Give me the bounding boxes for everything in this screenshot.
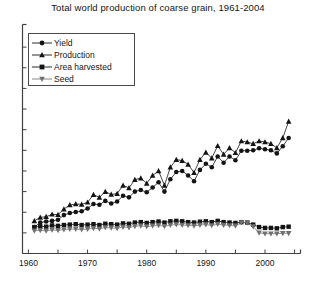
- legend-label-yield: Yield: [54, 37, 73, 49]
- data-point: [162, 189, 167, 194]
- data-point: [114, 226, 120, 231]
- x-axis-tick-label: 1970: [78, 258, 97, 268]
- data-point: [133, 189, 138, 194]
- data-point: [227, 145, 233, 150]
- data-point: [281, 225, 285, 229]
- data-point: [68, 211, 73, 216]
- data-point: [239, 138, 245, 143]
- data-point: [56, 224, 60, 228]
- data-point: [79, 227, 85, 232]
- data-point: [280, 135, 286, 140]
- data-point: [168, 177, 173, 182]
- data-point: [109, 201, 114, 206]
- triangle-up-marker-icon: [32, 49, 52, 61]
- data-point: [144, 224, 150, 229]
- legend-label-area-harvested: Area harvested: [54, 61, 112, 73]
- data-point: [44, 219, 49, 224]
- data-point: [286, 224, 290, 228]
- data-point: [43, 214, 49, 219]
- series-line: [34, 121, 288, 220]
- data-point: [32, 229, 38, 234]
- data-point: [233, 224, 239, 229]
- data-point: [91, 222, 95, 226]
- data-point: [43, 229, 49, 234]
- data-point: [203, 149, 209, 154]
- data-point: [103, 199, 108, 204]
- data-point: [162, 224, 168, 229]
- data-point: [150, 185, 155, 190]
- data-point: [50, 219, 55, 224]
- data-point: [286, 119, 292, 124]
- chart-figure: Total world production of coarse grain, …: [0, 0, 316, 285]
- data-point: [257, 225, 261, 229]
- data-point: [215, 143, 221, 148]
- data-point: [245, 148, 250, 153]
- data-point: [38, 224, 42, 228]
- data-point: [173, 157, 179, 162]
- data-point: [97, 226, 103, 231]
- series-line: [34, 138, 288, 227]
- data-point: [73, 210, 78, 215]
- data-point: [150, 173, 156, 178]
- data-point: [186, 173, 191, 178]
- data-point: [79, 209, 84, 214]
- data-point: [156, 219, 160, 223]
- data-point: [55, 228, 61, 233]
- data-point: [126, 225, 132, 230]
- data-point: [269, 226, 273, 230]
- series-yield: [32, 136, 291, 230]
- data-point: [68, 222, 72, 226]
- data-point: [62, 213, 67, 218]
- data-point: [286, 136, 291, 141]
- data-point: [138, 188, 143, 193]
- circle-marker-icon: [32, 37, 52, 49]
- data-point: [44, 224, 48, 228]
- data-point: [91, 192, 97, 197]
- x-axis-tick-label: 2000: [256, 258, 275, 268]
- data-point: [192, 179, 197, 184]
- data-point: [215, 154, 220, 159]
- data-point: [144, 190, 149, 195]
- data-point: [221, 160, 226, 165]
- data-point: [185, 161, 191, 166]
- data-point: [50, 223, 54, 227]
- data-point: [120, 183, 126, 188]
- x-axis-tick-label: 1980: [137, 258, 156, 268]
- data-point: [127, 195, 132, 200]
- data-point: [263, 147, 268, 152]
- data-point: [239, 148, 244, 153]
- data-point: [269, 148, 274, 153]
- legend-item-area-harvested: Area harvested: [29, 61, 134, 73]
- data-point: [227, 154, 232, 159]
- legend-label-seed: Seed: [54, 73, 74, 85]
- data-point: [115, 199, 120, 204]
- data-point: [275, 226, 279, 230]
- data-point: [85, 206, 90, 211]
- x-axis-tick-label: 1990: [196, 258, 215, 268]
- data-point: [280, 144, 285, 149]
- data-point: [49, 211, 55, 216]
- data-point: [79, 223, 83, 227]
- data-point: [162, 183, 168, 188]
- data-point: [97, 202, 102, 207]
- data-point: [138, 175, 144, 180]
- data-point: [121, 193, 126, 198]
- triangle-down-marker-icon: [32, 73, 52, 85]
- data-point: [275, 151, 280, 156]
- data-point: [209, 223, 215, 228]
- data-point: [156, 168, 162, 173]
- data-point: [209, 165, 214, 170]
- data-point: [251, 148, 256, 153]
- data-point: [180, 169, 185, 174]
- data-point: [204, 161, 209, 166]
- series-production: [32, 119, 292, 224]
- data-point: [91, 202, 96, 207]
- data-point: [74, 222, 78, 226]
- data-point: [156, 180, 161, 185]
- data-point: [32, 218, 38, 223]
- data-point: [274, 145, 280, 150]
- data-point: [62, 223, 66, 227]
- data-point: [233, 158, 238, 163]
- x-axis-tick-label: 1960: [19, 258, 38, 268]
- data-point: [256, 138, 262, 143]
